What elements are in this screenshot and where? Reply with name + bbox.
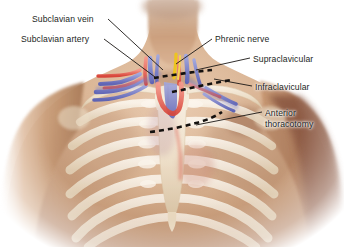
label-phrenic-nerve: Phrenic nerve — [215, 34, 269, 45]
label-infraclavicular: Infraclavicular — [255, 82, 310, 93]
label-supraclavicular: Supraclavicular — [253, 54, 313, 65]
shoulder-joint-left — [58, 106, 90, 130]
anatomy-figure: Subclavian vein Subclavian artery Phreni… — [0, 0, 344, 247]
label-subclavian-vein: Subclavian vein — [32, 14, 94, 25]
heart-tint — [178, 144, 214, 188]
label-subclavian-artery: Subclavian artery — [21, 34, 89, 45]
label-anterior-thoracotomy: Anterior thoracotomy — [265, 108, 313, 129]
